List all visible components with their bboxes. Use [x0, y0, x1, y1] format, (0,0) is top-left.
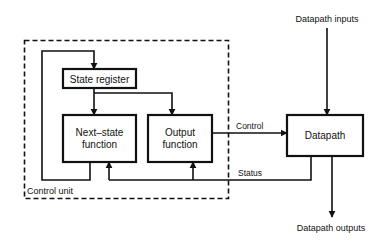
state-register-block: State register [63, 69, 136, 88]
status-signal-label: Status [238, 168, 262, 178]
next-state-label-line2: function [82, 139, 117, 150]
diagram-canvas: Control unit State register Next–state f… [0, 0, 384, 248]
datapath-outputs-label: Datapath outputs [297, 223, 366, 233]
output-function-label-line2: function [162, 139, 197, 150]
datapath-block: Datapath [287, 115, 363, 156]
output-function-block: Output function [148, 115, 212, 162]
state-to-output-arrow [94, 93, 172, 115]
next-state-label-line1: Next–state [76, 127, 124, 138]
state-register-label: State register [70, 74, 130, 85]
datapath-inputs-label: Datapath inputs [295, 14, 359, 24]
next-state-function-block: Next–state function [63, 115, 136, 162]
datapath-label: Datapath [305, 130, 346, 141]
control-unit-label: Control unit [27, 186, 74, 196]
control-signal-label: Control [236, 121, 264, 131]
output-function-label-line1: Output [165, 127, 195, 138]
